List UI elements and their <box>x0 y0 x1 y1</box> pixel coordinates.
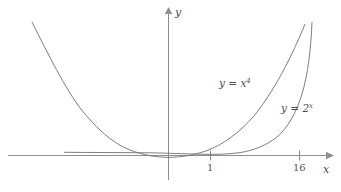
curve-label-quartic: y = x4 <box>219 78 251 89</box>
y-axis <box>165 7 172 180</box>
curve-label-exponential: y = 2x <box>281 103 313 114</box>
x-tick-label-1: 1 <box>207 163 213 173</box>
x-axis <box>8 152 334 159</box>
x-tick-label-16: 16 <box>293 163 306 173</box>
plot-canvas <box>0 0 341 192</box>
curve-label-quartic-text: y = x <box>219 77 246 89</box>
math-figure: y x 1 16 y = x4 y = 2x <box>0 0 341 192</box>
curve-label-exponential-text: y = 2 <box>281 102 309 114</box>
y-axis-label: y <box>175 7 181 18</box>
curve-label-exponential-exponent: x <box>309 102 313 110</box>
curve-label-quartic-exponent: 4 <box>246 77 250 85</box>
curve-exponential <box>64 22 312 154</box>
x-axis-label: x <box>323 164 329 175</box>
